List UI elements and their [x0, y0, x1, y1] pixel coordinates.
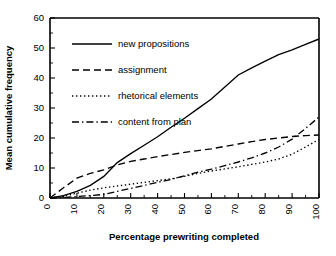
x-tick-label: 0: [41, 204, 52, 209]
y-tick-label: 40: [33, 72, 44, 83]
y-tick-group: 0102030405060: [33, 12, 55, 203]
x-tick-label: 10: [68, 204, 79, 215]
x-tick-group: 0102030405060708090100: [41, 193, 321, 220]
y-tick-label: 10: [33, 162, 44, 173]
y-tick-label: 60: [33, 12, 44, 23]
y-tick-label: 0: [39, 192, 44, 203]
x-tick-label: 20: [95, 204, 106, 215]
x-tick-label: 80: [256, 204, 267, 215]
legend-label: new propositions: [118, 38, 190, 49]
x-tick-label: 100: [310, 204, 321, 220]
chart-svg: 0102030405060 0102030405060708090100 new…: [0, 0, 336, 256]
x-tick-label: 70: [229, 204, 240, 215]
x-tick-label: 60: [202, 204, 213, 215]
chart-figure: 0102030405060 0102030405060708090100 new…: [0, 0, 336, 256]
series-line-assignment: [50, 135, 319, 198]
legend-label: assignment: [118, 64, 167, 75]
x-tick-label: 90: [283, 204, 294, 215]
x-axis-title: Percentage prewriting completed: [109, 231, 259, 242]
x-tick-label: 50: [176, 204, 187, 215]
series-line-rhetorical-elements: [50, 140, 319, 199]
x-tick-label: 40: [149, 204, 160, 215]
y-axis-title: Mean cumulative frequency: [3, 45, 14, 170]
legend-label: content from plan: [118, 116, 191, 127]
x-tick-label: 30: [122, 204, 133, 215]
y-tick-label: 50: [33, 42, 44, 53]
chart-legend: new propositionsassignmentrhetorical ele…: [72, 38, 199, 127]
y-tick-label: 30: [33, 102, 44, 113]
legend-label: rhetorical elements: [118, 90, 199, 101]
y-tick-label: 20: [33, 132, 44, 143]
